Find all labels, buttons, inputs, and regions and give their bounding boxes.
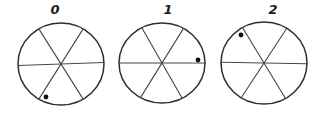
- wheel-1: [119, 23, 205, 103]
- wheel-2-label: 2: [268, 2, 277, 17]
- wheel-0-label: 0: [50, 2, 59, 17]
- wheel-1-label: 1: [163, 2, 172, 17]
- spinner-figure-svg: 0 1 2: [0, 0, 320, 113]
- marker-dot: [239, 33, 244, 38]
- marker-dot: [196, 58, 201, 63]
- spinner-diagram: 0 1 2: [0, 0, 320, 113]
- wheel-0: [18, 23, 104, 105]
- marker-dot: [44, 95, 49, 100]
- wheel-2: [221, 22, 307, 104]
